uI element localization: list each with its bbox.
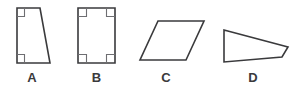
shape-label-a: A bbox=[27, 71, 37, 84]
shape-label-c: C bbox=[161, 71, 171, 84]
quadrilaterals-figure: A B C D bbox=[0, 0, 303, 86]
shape-label-d: D bbox=[248, 71, 258, 84]
shape-label-b: B bbox=[92, 71, 102, 84]
shape-c-parallelogram bbox=[140, 21, 204, 60]
shape-d-irregular-quadrilateral bbox=[224, 30, 288, 62]
